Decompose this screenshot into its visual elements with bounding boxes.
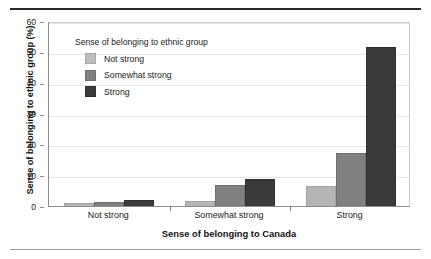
legend-item: Strong <box>75 86 208 97</box>
legend-swatch-light <box>85 53 96 64</box>
x-tick-label: Not strong <box>48 210 169 220</box>
legend-items: Not strongSomewhat strongStrong <box>75 53 208 97</box>
y-tick-label: 40 <box>0 79 36 88</box>
legend-swatch-medium <box>85 70 96 81</box>
y-tick-mark <box>40 53 44 54</box>
legend-item-label: Not strong <box>104 54 144 64</box>
gridline <box>49 23 409 24</box>
legend-item-label: Strong <box>104 87 130 97</box>
legend-title: Sense of belonging to ethnic group <box>75 37 208 47</box>
gridline <box>49 116 409 117</box>
y-tick-mark <box>40 145 44 146</box>
bottom-divider-rule <box>10 249 421 250</box>
chart-figure: Sense of belonging to ethnic group (%) 0… <box>0 0 431 259</box>
chart-legend: Sense of belonging to ethnic group Not s… <box>75 37 208 103</box>
gridline <box>49 146 409 147</box>
y-tick-label: 0 <box>0 203 36 212</box>
legend-item: Somewhat strong <box>75 70 208 81</box>
bar <box>245 179 275 207</box>
plot-area: Sense of belonging to ethnic group Not s… <box>48 22 410 207</box>
x-axis-baseline <box>48 206 410 207</box>
bar <box>336 153 366 207</box>
y-tick-mark <box>40 207 44 208</box>
legend-swatch-dark <box>85 86 96 97</box>
bar <box>215 185 245 207</box>
y-tick-label: 50 <box>0 48 36 57</box>
x-tick-label: Somewhat strong <box>169 210 290 220</box>
y-tick-label: 30 <box>0 110 36 119</box>
bar <box>306 186 336 207</box>
y-axis-tick-labels: 0102030405060 <box>0 22 44 207</box>
x-axis-title: Sense of belonging to Canada <box>48 228 410 239</box>
legend-item-label: Somewhat strong <box>104 70 172 80</box>
legend-item: Not strong <box>75 53 208 64</box>
y-tick-label: 10 <box>0 172 36 181</box>
y-tick-mark <box>40 22 44 23</box>
x-axis-tick-labels: Not strongSomewhat strongStrong <box>48 210 410 226</box>
top-divider-rule <box>10 8 421 10</box>
y-tick-label: 60 <box>0 18 36 27</box>
x-tick-label: Strong <box>289 210 410 220</box>
y-tick-mark <box>40 84 44 85</box>
bar <box>366 47 396 207</box>
y-tick-label: 20 <box>0 141 36 150</box>
y-tick-mark <box>40 115 44 116</box>
y-tick-mark <box>40 176 44 177</box>
